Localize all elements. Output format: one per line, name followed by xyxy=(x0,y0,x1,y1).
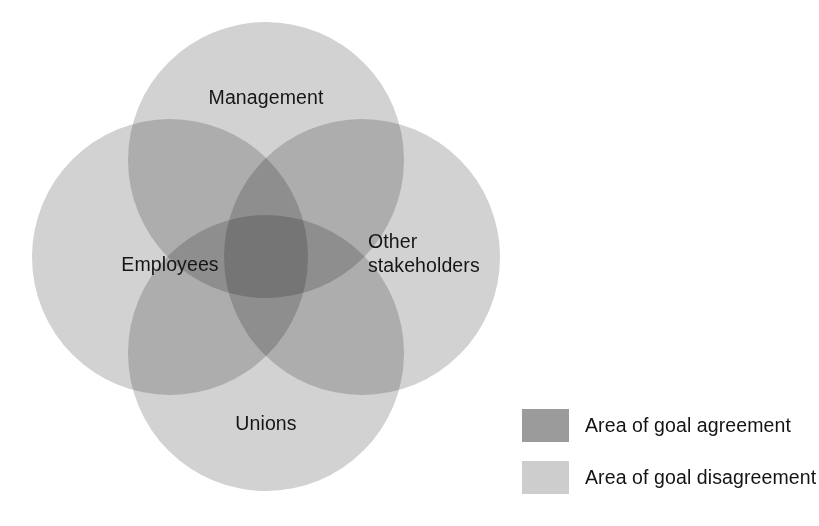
legend-label-disagreement: Area of goal disagreement xyxy=(585,466,816,489)
venn-label-management: Management xyxy=(176,86,356,110)
venn-label-unions: Unions xyxy=(176,412,356,436)
venn-diagram-figure: Management Employees Other stakeholders … xyxy=(0,0,819,526)
legend-label-agreement: Area of goal agreement xyxy=(585,414,791,437)
venn-label-employees: Employees xyxy=(80,253,260,277)
legend: Area of goal agreement Area of goal disa… xyxy=(522,399,812,503)
legend-swatch-agreement xyxy=(522,409,569,442)
venn-label-other-stakeholders: Other stakeholders xyxy=(368,230,518,278)
legend-item-agreement: Area of goal agreement xyxy=(522,399,812,451)
legend-swatch-disagreement xyxy=(522,461,569,494)
venn-diagram-area: Management Employees Other stakeholders … xyxy=(0,0,520,526)
legend-item-disagreement: Area of goal disagreement xyxy=(522,451,812,503)
